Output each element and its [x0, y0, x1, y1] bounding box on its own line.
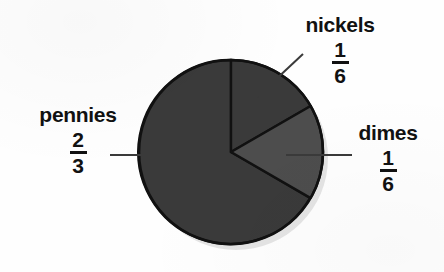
slice-fraction-nickels: 1 6 — [331, 39, 349, 87]
slice-label-pennies: pennies 2 3 — [14, 104, 142, 177]
slice-fraction-dimes-denominator: 6 — [379, 172, 397, 194]
slice-label-dimes: dimes 1 6 — [338, 122, 438, 195]
slice-fraction-dimes: 1 6 — [379, 147, 397, 195]
slice-fraction-pennies: 2 3 — [69, 129, 87, 177]
slice-fraction-dimes-numerator: 1 — [379, 147, 397, 169]
slice-fraction-nickels-denominator: 6 — [331, 64, 349, 86]
slice-fraction-pennies-numerator: 2 — [69, 129, 87, 151]
slice-label-pennies-name: pennies — [14, 104, 142, 125]
slice-fraction-pennies-denominator: 3 — [69, 154, 87, 176]
slice-label-nickels: nickels 1 6 — [284, 14, 396, 87]
slice-label-dimes-name: dimes — [338, 122, 438, 143]
slice-fraction-nickels-numerator: 1 — [331, 39, 349, 61]
slice-label-nickels-name: nickels — [284, 14, 396, 35]
figure-canvas: nickels 1 6 pennies 2 3 dimes 1 6 — [0, 0, 444, 272]
